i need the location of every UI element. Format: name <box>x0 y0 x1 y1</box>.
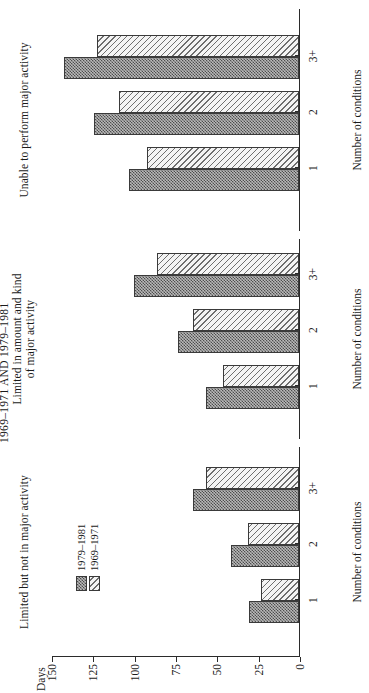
bar-3-cat3plus-1979-1981[interactable] <box>193 489 299 511</box>
bar-2-cat1-1979-1981[interactable] <box>206 387 299 409</box>
value-tick-label-75: 75 <box>170 664 182 676</box>
category-label-2-cat1: 1 <box>307 371 319 401</box>
panel-title-3: Limited but not in major activity <box>18 447 31 657</box>
value-tick-label-125: 125 <box>87 664 99 681</box>
rotated-figure-container: 150 125 100 75 50 25 0 Days Limited but … <box>0 0 369 693</box>
category-label-3-cat3plus: 3+ <box>307 473 319 503</box>
bar-group-1-cat1 <box>51 145 299 191</box>
bar-2-cat3plus-1969-1971[interactable] <box>157 253 299 275</box>
category-label-1-cat3plus: 3+ <box>307 41 319 71</box>
bar-group-2-cat3plus <box>51 251 299 297</box>
category-tick-2-cat1 <box>295 385 300 386</box>
bar-2-cat2-1969-1971[interactable] <box>193 309 299 331</box>
category-axis-title-3: Number of conditions <box>351 447 363 657</box>
legend-label-1969-1971: 1969–1971 <box>89 524 100 571</box>
value-tick-label-100: 100 <box>129 664 141 681</box>
bar-2-cat2-1979-1981[interactable] <box>178 331 299 353</box>
bar-3-cat1-1979-1981[interactable] <box>249 601 299 623</box>
value-tick-0 <box>300 657 301 662</box>
bar-group-2-cat2 <box>51 307 299 353</box>
legend: 1979–1981 1969–1971 <box>76 524 102 591</box>
category-label-1-cat2: 2 <box>307 97 319 127</box>
category-label-3-cat1: 1 <box>307 585 319 615</box>
bar-group-1-cat3plus <box>51 33 299 79</box>
category-axis-title-1: Number of conditions <box>351 9 363 231</box>
legend-item-1979-1981[interactable]: 1979–1981 <box>76 524 87 591</box>
bar-2-cat1-1969-1971[interactable] <box>223 365 299 387</box>
category-label-2-cat2: 2 <box>307 315 319 345</box>
bar-1-cat3plus-1979-1981[interactable] <box>64 57 299 79</box>
bar-1-cat2-1969-1971[interactable] <box>119 91 299 113</box>
value-tick-label-150: 150 <box>46 664 58 681</box>
panel-title-2-line1: Limited in amount and kind <box>11 274 23 405</box>
bar-2-cat3plus-1979-1981[interactable] <box>134 275 299 297</box>
bar-1-cat3plus-1969-1971[interactable] <box>97 35 299 57</box>
bar-1-cat1-1969-1971[interactable] <box>147 147 299 169</box>
bar-group-2-cat1 <box>51 363 299 409</box>
legend-swatch-recent-icon <box>76 576 87 591</box>
bar-group-3-cat3plus <box>51 465 299 511</box>
panel-unable-to-perform-major-activity: Unable to perform major activity 1 2 <box>0 9 369 231</box>
value-tick-label-0: 0 <box>294 664 306 670</box>
bar-3-cat1-1969-1971[interactable] <box>261 579 299 601</box>
category-tick-1-cat2 <box>295 111 300 112</box>
category-axis-title-2: Number of conditions <box>351 239 363 439</box>
category-tick-2-cat2 <box>295 329 300 330</box>
category-label-1-cat1: 1 <box>307 153 319 183</box>
value-axis-title: Days <box>35 667 47 691</box>
value-tick-100 <box>135 657 136 662</box>
category-tick-3-cat2 <box>295 543 300 544</box>
chart-figure: 150 125 100 75 50 25 0 Days Limited but … <box>0 0 369 693</box>
category-tick-1-cat3plus <box>295 55 300 56</box>
legend-label-1979-1981: 1979–1981 <box>76 524 87 571</box>
panel-limited-but-not-in-major-activity: Limited but not in major activity 1 2 <box>0 447 369 657</box>
bar-1-cat2-1979-1981[interactable] <box>94 113 299 135</box>
category-tick-3-cat3plus <box>295 487 300 488</box>
panel-limited-in-amount-and-kind: Limited in amount and kind of major acti… <box>0 239 369 439</box>
category-tick-3-cat1 <box>295 599 300 600</box>
category-tick-1-cat1 <box>295 167 300 168</box>
bar-1-cat1-1979-1981[interactable] <box>129 169 299 191</box>
bar-3-cat2-1979-1981[interactable] <box>231 545 299 567</box>
value-tick-75 <box>176 657 177 662</box>
panel-title-1: Unable to perform major activity <box>18 9 31 231</box>
category-label-3-cat2: 2 <box>307 529 319 559</box>
legend-item-1969-1971[interactable]: 1969–1971 <box>89 524 100 591</box>
value-tick-150 <box>52 657 53 662</box>
value-tick-125 <box>93 657 94 662</box>
bar-3-cat2-1969-1971[interactable] <box>248 523 299 545</box>
value-tick-25 <box>259 657 260 662</box>
plot-area-2: 1 2 3+ <box>52 239 300 439</box>
chart-main-title: 1969–1971 AND 1979–1981 <box>0 303 10 443</box>
category-label-2-cat3plus: 3+ <box>307 259 319 289</box>
plot-area-1: 1 2 3+ <box>52 9 300 231</box>
value-tick-label-50: 50 <box>211 664 223 676</box>
panel-title-2-line2: of major activity <box>24 300 36 378</box>
panel-title-2: Limited in amount and kind of major acti… <box>11 239 36 439</box>
value-tick-label-25: 25 <box>253 664 265 676</box>
bar-3-cat3plus-1969-1971[interactable] <box>206 467 299 489</box>
bar-group-1-cat2 <box>51 89 299 135</box>
category-tick-2-cat3plus <box>295 273 300 274</box>
legend-swatch-early-icon <box>89 576 100 591</box>
value-tick-50 <box>217 657 218 662</box>
